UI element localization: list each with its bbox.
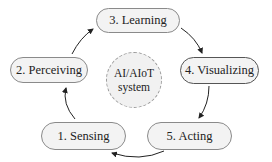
center-label-line1: AI/AIoT: [114, 66, 154, 80]
stage-label: 4. Visualizing: [185, 63, 254, 78]
center-system-circle: AI/AIoT system: [106, 52, 162, 108]
stage-label: 5. Acting: [167, 129, 213, 144]
stage-visualizing: 4. Visualizing: [180, 57, 259, 84]
stage-label: 2. Perceiving: [16, 63, 82, 78]
stage-label: 3. Learning: [109, 13, 167, 28]
arrow-acting-to-sensing: [112, 151, 164, 157]
stage-sensing: 1. Sensing: [41, 122, 126, 150]
arrow-perceiving-to-learning: [72, 29, 93, 54]
stage-acting: 5. Acting: [147, 122, 232, 150]
stage-perceiving: 2. Perceiving: [10, 57, 88, 83]
arrow-learning-to-visualizing: [181, 28, 202, 53]
arrow-visualizing-to-acting: [199, 86, 209, 118]
stage-learning: 3. Learning: [96, 8, 180, 33]
arrow-sensing-to-perceiving: [65, 88, 75, 119]
center-label-line2: system: [118, 80, 150, 94]
cycle-diagram: 3. Learning 2. Perceiving 4. Visualizing…: [0, 0, 272, 162]
stage-label: 1. Sensing: [57, 129, 109, 144]
